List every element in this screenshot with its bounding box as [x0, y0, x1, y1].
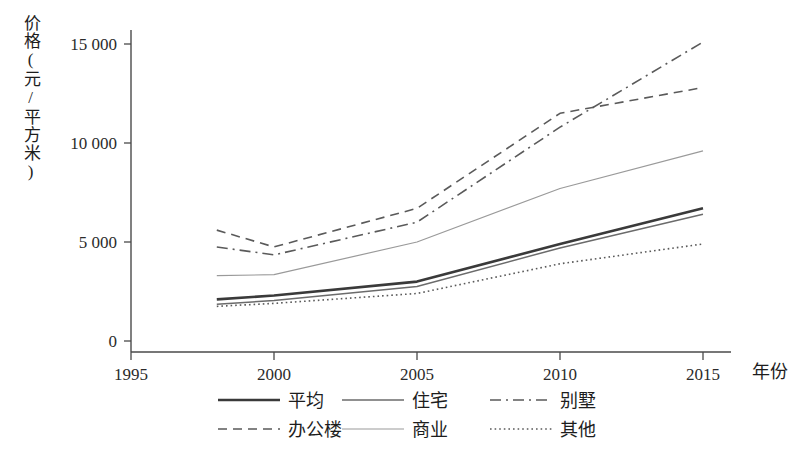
x-axis-ticks: 19952000200520102015	[114, 352, 720, 384]
legend-item-label: 办公楼	[288, 420, 342, 440]
y-tick-label: 10 000	[70, 134, 117, 153]
line-chart: 价格(元/平方米) 05 00010 00015 000 19952000200…	[0, 0, 810, 468]
x-tick-label: 2010	[543, 365, 577, 384]
y-tick-label: 0	[109, 332, 118, 351]
legend-item-label: 平均	[288, 391, 324, 411]
legend-item-label: 住宅	[412, 391, 448, 411]
chart-canvas: 05 00010 00015 000 19952000200520102015 …	[0, 0, 810, 468]
legend-item-label: 别墅	[560, 391, 596, 411]
legend-item-label: 其他	[560, 420, 596, 440]
y-tick-label: 15 000	[70, 35, 117, 54]
series-line	[217, 208, 703, 299]
x-axis-title-label: 年份	[752, 362, 788, 382]
x-tick-label: 1995	[114, 365, 148, 384]
series-lines	[217, 42, 703, 306]
chart-legend: 平均住宅别墅办公楼商业其他	[218, 391, 596, 440]
y-axis-ticks: 05 00010 00015 000	[70, 35, 131, 351]
series-line	[217, 42, 703, 255]
y-tick-label: 5 000	[79, 233, 117, 252]
x-tick-label: 2000	[257, 365, 291, 384]
series-line	[217, 88, 703, 247]
series-line	[217, 151, 703, 276]
x-tick-label: 2005	[400, 365, 434, 384]
legend-item-label: 商业	[412, 420, 448, 440]
x-tick-label: 2015	[686, 365, 720, 384]
